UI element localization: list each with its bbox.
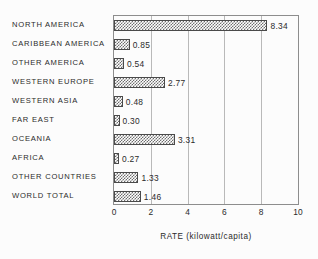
bar: [114, 96, 123, 107]
bar-value-label: 1.33: [141, 168, 159, 187]
x-tick-label: 8: [259, 207, 264, 217]
bar-value-label: 2.77: [168, 73, 186, 92]
bar-row: 3.31: [114, 130, 318, 149]
bar-value-label: 0.48: [126, 92, 144, 111]
category-label: OTHER AMERICA: [12, 53, 85, 72]
bar-row: 8.34: [114, 16, 318, 35]
bar-value-label: 0.30: [123, 111, 141, 130]
bar-row: 0.54: [114, 54, 318, 73]
x-tick-label: 6: [222, 207, 227, 217]
x-tick-label: 0: [112, 207, 117, 217]
bar: [114, 153, 119, 164]
x-tick-label: 4: [185, 207, 190, 217]
bar: [114, 39, 130, 50]
category-axis-labels: NORTH AMERICACARIBBEAN AMERICAOTHER AMER…: [12, 15, 112, 205]
x-tick-label: 2: [148, 207, 153, 217]
bar-row: 0.48: [114, 92, 318, 111]
bar-value-label: 0.54: [127, 54, 145, 73]
bar-row: 1.46: [114, 187, 318, 206]
bar: [114, 20, 267, 31]
category-label: OCEANIA: [12, 129, 51, 148]
bar-value-label: 0.85: [133, 35, 151, 54]
bar-value-label: 0.27: [122, 149, 140, 168]
bar-row: 0.30: [114, 111, 318, 130]
bar: [114, 134, 175, 145]
x-tick-label: 10: [293, 207, 302, 217]
bar-row: 0.27: [114, 149, 318, 168]
bar-value-label: 3.31: [178, 130, 196, 149]
bar: [114, 191, 141, 202]
bar-value-label: 1.46: [144, 187, 162, 206]
category-label: WORLD TOTAL: [12, 186, 74, 205]
category-label: OTHER COUNTRIES: [12, 167, 97, 186]
category-label: NORTH AMERICA: [12, 15, 85, 34]
x-axis-tick-labels: 0246810: [113, 207, 299, 219]
bars-layer: 8.340.850.542.770.480.303.310.271.331.46: [114, 16, 299, 205]
category-label: FAR EAST: [12, 110, 55, 129]
bar-row: 2.77: [114, 73, 318, 92]
category-label: WESTERN EUROPE: [12, 72, 95, 91]
bar-chart: NORTH AMERICACARIBBEAN AMERICAOTHER AMER…: [0, 0, 318, 259]
bar: [114, 115, 120, 126]
category-label: CARIBBEAN AMERICA: [12, 34, 105, 53]
bar: [114, 172, 138, 183]
category-label: AFRICA: [12, 148, 44, 167]
category-label: WESTERN ASIA: [12, 91, 78, 110]
bar-value-label: 8.34: [270, 16, 288, 35]
bar-row: 0.85: [114, 35, 318, 54]
bar: [114, 58, 124, 69]
bar-row: 1.33: [114, 168, 318, 187]
bar: [114, 77, 165, 88]
x-axis-title: RATE (kilowatt/capita): [113, 232, 299, 241]
